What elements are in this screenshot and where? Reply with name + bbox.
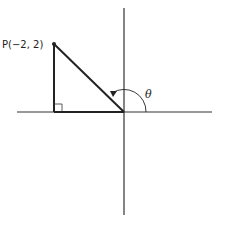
point-p-label: P(−2, 2)	[2, 39, 43, 50]
diagram-canvas: P(−2, 2) θ	[0, 0, 229, 225]
angle-arc	[112, 89, 146, 112]
right-angle-marker	[54, 104, 62, 112]
terminal-side	[54, 44, 124, 112]
point-p	[52, 42, 56, 46]
angle-label: θ	[145, 88, 152, 101]
angle-arrowhead-icon	[110, 91, 117, 97]
